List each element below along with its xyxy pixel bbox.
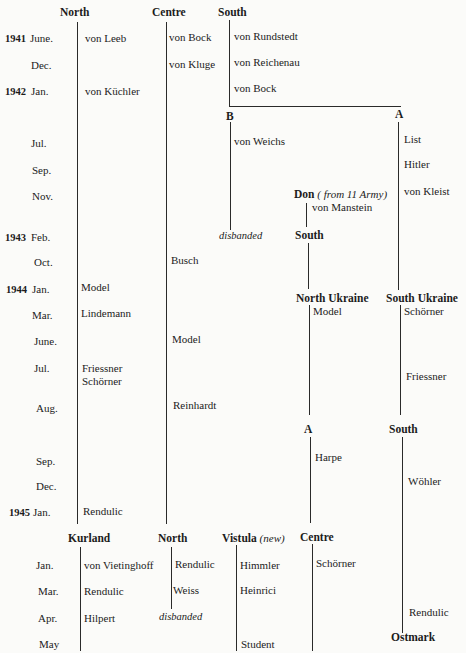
- don-label: Don: [294, 188, 314, 200]
- don-note: ( from 11 Army): [317, 188, 387, 200]
- commander-entry: Schörner: [404, 305, 444, 317]
- a-line: [398, 122, 399, 290]
- date-label: Jul.: [34, 362, 50, 374]
- date-label: Nov.: [32, 190, 53, 202]
- commander-entry: Wöhler: [408, 475, 441, 487]
- date-label: Dec.: [36, 480, 56, 492]
- commander-entry: von Rundstedt: [234, 30, 298, 42]
- south3-line: [402, 437, 403, 633]
- commander-entry: von Küchler: [85, 85, 140, 97]
- year-1944: 1944: [6, 284, 27, 296]
- don-line: [306, 203, 307, 227]
- commander-entry: Hilpert: [84, 612, 115, 624]
- commander-entry: Student: [241, 638, 275, 650]
- column-header-south-ukraine: South Ukraine: [386, 292, 458, 304]
- column-header-a: A: [395, 108, 403, 120]
- date-label: Jan.: [36, 559, 53, 571]
- commander-entry: Rendulic: [409, 606, 449, 618]
- year-1942: 1942: [5, 86, 26, 98]
- date-label: June.: [34, 335, 57, 347]
- column-header-don: Don ( from 11 Army): [294, 188, 387, 200]
- north-ukraine-line: [309, 305, 310, 415]
- commander-entry: Rendulic: [83, 505, 123, 517]
- date-label: Dec.: [31, 59, 51, 71]
- commander-entry: Rendulic: [84, 585, 124, 597]
- commander-entry: Model: [313, 305, 342, 317]
- date-label: Jan.: [32, 283, 49, 295]
- commander-entry: Schörner: [316, 557, 356, 569]
- date-label: Mar.: [32, 309, 52, 321]
- date-label: Sep.: [36, 455, 55, 467]
- commander-entry: Heinrici: [240, 584, 276, 596]
- kurland-line: [80, 547, 81, 651]
- date-label: May: [39, 638, 59, 650]
- vistula-note: (new): [260, 532, 285, 544]
- commander-entry: Weiss: [173, 584, 199, 596]
- column-header-north: North: [60, 6, 89, 18]
- south2-line: [308, 243, 309, 289]
- column-header-south: South: [218, 6, 247, 18]
- date-label: Oct.: [34, 256, 53, 268]
- date-label: Sep.: [32, 164, 51, 176]
- commander-entry: Schörner: [82, 375, 122, 387]
- commander-entry: Hitler: [404, 158, 430, 170]
- commander-entry: von Kluge: [169, 58, 215, 70]
- commander-entry: von Weichs: [234, 135, 285, 147]
- column-header-kurland: Kurland: [68, 532, 110, 544]
- column-header-ostmark: Ostmark: [391, 631, 435, 643]
- commander-entry: Model: [172, 333, 201, 345]
- commander-entry: von Bock: [169, 31, 211, 43]
- date-label: Mar.: [38, 585, 58, 597]
- commander-entry: von Vietinghoff: [84, 559, 154, 571]
- commander-entry: Reinhardt: [173, 399, 216, 411]
- vistula-label: Vistula: [222, 532, 257, 544]
- commander-entry: Friessner: [82, 362, 122, 374]
- column-header-north2: North: [158, 532, 187, 544]
- commander-entry: Himmler: [240, 559, 280, 571]
- date-label: Apr.: [38, 612, 57, 624]
- column-header-centre: Centre: [152, 6, 186, 18]
- centre2-line: [312, 544, 313, 651]
- commander-entry: List: [404, 133, 421, 145]
- commander-entry: Friessner: [406, 370, 446, 382]
- date-label: June.: [30, 32, 53, 44]
- commander-entry: von Manstein: [312, 201, 372, 213]
- date-label: Feb.: [31, 231, 50, 243]
- disbanded-label: disbanded: [219, 230, 262, 242]
- disbanded-label: disbanded: [159, 611, 202, 623]
- commander-entry: Model: [81, 281, 110, 293]
- commander-entry: Rendulic: [175, 558, 215, 570]
- north-line: [77, 22, 78, 524]
- commander-entry: von Kleist: [404, 185, 450, 197]
- column-header-south3: South: [389, 423, 418, 435]
- date-label: Aug.: [36, 402, 58, 414]
- commander-entry: von Reichenau: [234, 56, 300, 68]
- column-header-south2: South: [295, 229, 324, 241]
- vistula-line: [236, 545, 237, 651]
- date-label: Jan.: [31, 85, 48, 97]
- commander-entry: von Leeb: [85, 32, 126, 44]
- commander-entry: Harpe: [315, 451, 342, 463]
- b-line: [230, 122, 231, 230]
- commander-entry: Lindemann: [81, 307, 131, 319]
- year-1943: 1943: [5, 232, 26, 244]
- column-header-north-ukraine: North Ukraine: [296, 292, 369, 304]
- column-header-a2: A: [304, 423, 312, 435]
- south-split-line: [229, 106, 401, 107]
- commander-entry: Busch: [171, 254, 199, 266]
- column-header-b: B: [226, 110, 234, 122]
- column-header-centre2: Centre: [300, 531, 334, 543]
- a2-line: [310, 437, 311, 523]
- north2-line: [171, 547, 172, 609]
- commander-entry: von Bock: [234, 82, 276, 94]
- year-1941: 1941: [5, 33, 26, 45]
- column-header-vistula: Vistula (new): [222, 532, 285, 544]
- date-label: Jan.: [33, 506, 50, 518]
- date-label: Jul.: [31, 137, 47, 149]
- year-1945: 1945: [9, 507, 30, 519]
- south-line: [229, 20, 230, 107]
- centre-line: [166, 22, 167, 524]
- south-ukraine-line: [400, 305, 401, 415]
